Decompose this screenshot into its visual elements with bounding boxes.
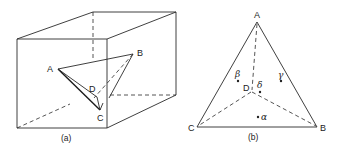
point-alpha <box>257 116 259 118</box>
triangle-abc <box>197 22 317 127</box>
cube-edge <box>107 95 176 128</box>
label-b: B <box>137 48 143 58</box>
figure-canvas: A B D C (a) A B C D β γ δ α (b) <box>0 0 343 155</box>
label-d: D <box>243 83 250 93</box>
label-a: A <box>47 64 53 74</box>
panel-a: A B D C (a) <box>17 12 176 143</box>
edge-dc <box>198 92 251 126</box>
tetra-edge-c-tick <box>100 103 103 110</box>
label-d: D <box>89 84 96 94</box>
label-c: C <box>97 113 104 123</box>
cube-hidden-edge <box>17 104 70 128</box>
label-a: A <box>254 10 260 20</box>
label-delta: δ <box>257 80 262 90</box>
label-beta: β <box>234 69 240 79</box>
panel-b: A B C D β γ δ α (b) <box>188 10 326 142</box>
point-delta <box>259 91 261 93</box>
label-gamma: γ <box>278 70 284 80</box>
tetra-edge-bc <box>109 54 133 98</box>
label-c: C <box>188 123 195 133</box>
cube-edge <box>107 12 176 39</box>
label-alpha: α <box>261 112 267 122</box>
caption-b: (b) <box>248 132 259 142</box>
point-gamma <box>280 80 282 82</box>
cube-edge <box>17 12 93 39</box>
point-beta <box>237 80 239 82</box>
label-b: B <box>320 123 326 133</box>
caption-a: (a) <box>61 133 72 143</box>
